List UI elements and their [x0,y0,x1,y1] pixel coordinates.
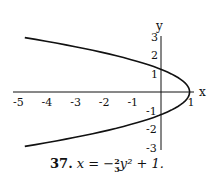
caption-rhs: y² + 1. [120,156,164,171]
y-tick-label: 2 [151,49,158,62]
y-tick-label: -3 [146,142,157,155]
x-tick-label: -1 [127,96,138,109]
y-tick-label: 1 [151,68,158,81]
y-tick-label: -1 [146,105,157,118]
x-axis-label: x [199,85,206,99]
x-tick-label: 1 [188,96,195,109]
x-tick-label: -5 [13,96,24,109]
x-tick-label: -2 [99,96,110,109]
caption-lhs: x = − [77,156,114,171]
y-tick-label: -2 [146,123,157,136]
y-axis-label: y [155,19,163,33]
x-tick-label: -3 [70,96,81,109]
parabola-plot: -5-4-3-2-11321-1-2-3 x y [0,0,214,179]
x-tick-label: -4 [42,96,53,109]
figure-caption: 37. x = −23y² + 1. [0,156,214,173]
caption-number: 37. [50,156,73,171]
